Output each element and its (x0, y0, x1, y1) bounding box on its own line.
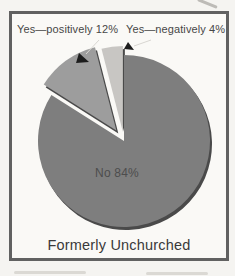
callout-arrow-icon (124, 42, 134, 50)
slice-label-yes-negatively: Yes—negatively 4% (126, 23, 225, 35)
slice-label-no: No 84% (87, 166, 147, 180)
callout-leader-line (134, 40, 151, 46)
pie-chart (0, 0, 235, 276)
chart-title: Formerly Unchurched (9, 237, 229, 253)
scanned-pie-chart-figure: Yes—positively 12% Yes—negatively 4% No … (0, 0, 235, 276)
slice-label-yes-positively: Yes—positively 12% (17, 23, 118, 35)
